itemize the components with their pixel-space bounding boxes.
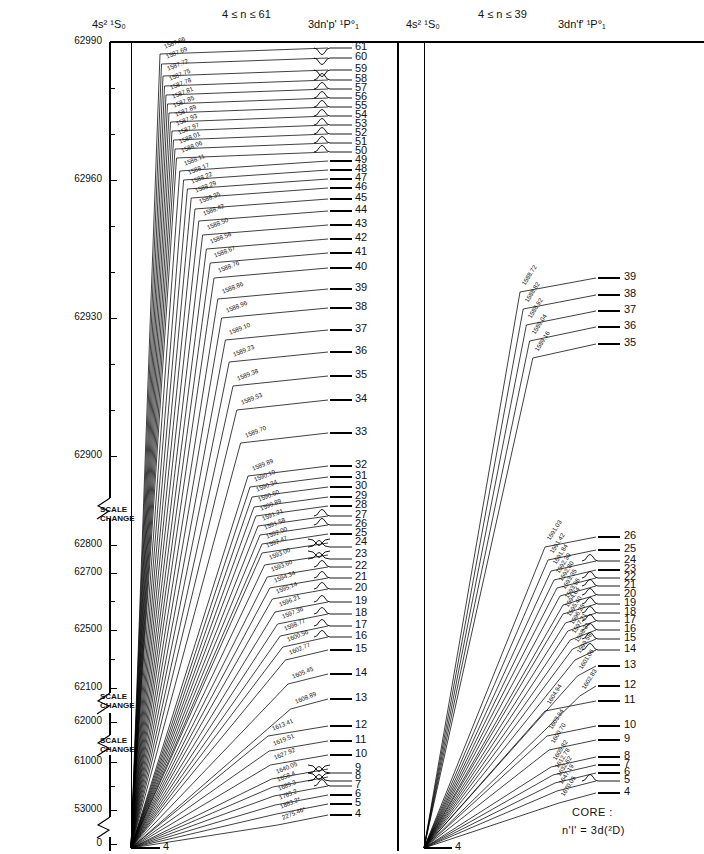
right-level-label-26: 26 xyxy=(624,529,636,541)
right-level-profile-21 xyxy=(582,580,620,587)
right-ground-label: 4 xyxy=(455,840,461,852)
left-level-label-60: 60 xyxy=(355,50,367,62)
left-level-profile-51 xyxy=(314,137,352,144)
left-transition-line-30 xyxy=(131,487,328,848)
y-axis-tick-label-20: 0 xyxy=(40,837,102,848)
left-level-label-42: 42 xyxy=(355,231,367,243)
left-level-label-19: 19 xyxy=(355,594,367,606)
left-level-profile-20 xyxy=(314,583,352,590)
right-level-label-9: 9 xyxy=(624,732,630,744)
left-level-profile-50 xyxy=(314,146,352,153)
y-axis-tick-label-16: 62000 xyxy=(40,715,102,726)
left-level-label-11: 11 xyxy=(355,733,366,745)
left-level-label-15: 15 xyxy=(355,642,367,654)
left-level-label-35: 35 xyxy=(355,368,367,380)
left-level-profile-52 xyxy=(314,128,352,135)
left-ground-label: 4 xyxy=(163,840,169,852)
y-axis-tick-label-17: 61000 xyxy=(40,755,102,766)
left-level-label-41: 41 xyxy=(355,245,367,257)
left-level-profile-21 xyxy=(314,572,352,579)
left-level-label-44: 44 xyxy=(355,203,367,215)
left-level-label-34: 34 xyxy=(355,392,367,404)
left-level-label-23: 23 xyxy=(355,547,367,559)
left-level-label-45: 45 xyxy=(355,191,367,203)
right-level-label-38: 38 xyxy=(624,287,636,299)
right-level-label-39: 39 xyxy=(624,270,636,282)
left-level-label-36: 36 xyxy=(355,344,367,356)
diagram-vectors xyxy=(0,0,704,854)
right-level-label-11: 11 xyxy=(624,693,635,705)
right-level-label-36: 36 xyxy=(624,319,636,331)
left-level-label-24: 24 xyxy=(355,535,367,547)
left-level-profile-60 xyxy=(314,58,352,65)
left-level-profile-58 xyxy=(314,74,352,81)
y-axis-tick-label-10: 62800 xyxy=(40,538,102,549)
right-level-label-35: 35 xyxy=(624,336,636,348)
left-level-label-18: 18 xyxy=(355,606,367,618)
y-axis-tick-label-15: 62100 xyxy=(40,681,102,692)
left-transition-line-16 xyxy=(131,637,328,848)
y-axis-tick-label-9: 62900 xyxy=(40,449,102,460)
left-level-label-40: 40 xyxy=(355,260,367,272)
y-axis-break-3 xyxy=(97,817,110,838)
right-level-label-37: 37 xyxy=(624,303,636,315)
left-level-label-10: 10 xyxy=(355,747,367,759)
left-level-profile-57 xyxy=(314,83,352,90)
left-level-label-20: 20 xyxy=(355,581,367,593)
left-level-profile-54 xyxy=(314,110,352,117)
right-level-profile-5 xyxy=(582,775,620,782)
left-level-profile-56 xyxy=(314,92,352,99)
left-level-label-4: 4 xyxy=(355,807,361,819)
y-axis-tick-label-6: 62930 xyxy=(40,311,102,322)
left-level-profile-24 xyxy=(308,539,352,547)
left-level-profile-61 xyxy=(314,48,352,55)
left-level-profile-9 xyxy=(308,765,352,773)
left-level-profile-22 xyxy=(314,561,352,568)
left-transition-line-45 xyxy=(131,199,328,848)
left-level-profile-27 xyxy=(314,510,352,517)
left-level-label-12: 12 xyxy=(355,718,367,730)
left-level-profile-17 xyxy=(314,620,352,627)
left-level-profile-26 xyxy=(314,519,352,526)
right-level-label-12: 12 xyxy=(624,678,636,690)
left-level-profile-53 xyxy=(314,119,352,126)
left-level-label-37: 37 xyxy=(355,322,367,334)
y-axis-tick-label-11: 62700 xyxy=(40,566,102,577)
left-level-label-13: 13 xyxy=(355,691,367,703)
right-level-profile-22 xyxy=(582,572,620,579)
y-axis-tick-label-13: 62500 xyxy=(40,623,102,634)
left-transition-line-12 xyxy=(131,726,328,848)
left-level-label-43: 43 xyxy=(355,217,367,229)
left-level-label-14: 14 xyxy=(355,666,367,678)
right-level-profile-19 xyxy=(582,598,620,605)
right-level-profile-18 xyxy=(582,607,620,614)
y-axis-break-2 xyxy=(97,735,110,756)
right-level-label-5: 5 xyxy=(624,773,630,785)
left-level-label-39: 39 xyxy=(355,281,367,293)
right-level-label-4: 4 xyxy=(624,785,630,797)
left-transition-line-4 xyxy=(131,815,328,848)
y-axis-tick-label-3: 62960 xyxy=(40,173,102,184)
y-axis-break-0 xyxy=(97,498,110,519)
right-level-label-13: 13 xyxy=(624,658,636,670)
left-level-profile-18 xyxy=(314,608,352,615)
left-level-label-16: 16 xyxy=(355,629,367,641)
left-level-profile-19 xyxy=(314,596,352,603)
right-transition-line-20 xyxy=(424,595,596,848)
y-axis-tick-label-0: 62990 xyxy=(40,35,102,46)
figure-canvas: ENERGY (cm⁻¹) 4s² ¹S₀ 4 ≤ n ≤ 61 3dn'p' … xyxy=(0,0,704,854)
right-level-profile-20 xyxy=(582,589,620,596)
left-level-profile-16 xyxy=(314,631,352,638)
y-axis-break-1 xyxy=(97,693,110,714)
left-level-profile-55 xyxy=(314,101,352,108)
left-level-label-33: 33 xyxy=(355,425,367,437)
right-transition-line-4 xyxy=(424,793,596,848)
right-level-label-14: 14 xyxy=(624,642,636,654)
left-level-profile-7 xyxy=(314,780,352,787)
right-level-profile-24 xyxy=(582,555,620,562)
right-level-label-10: 10 xyxy=(624,718,636,730)
left-level-profile-23 xyxy=(308,551,352,559)
y-axis-tick-label-19: 53000 xyxy=(40,803,102,814)
left-level-label-38: 38 xyxy=(355,300,367,312)
